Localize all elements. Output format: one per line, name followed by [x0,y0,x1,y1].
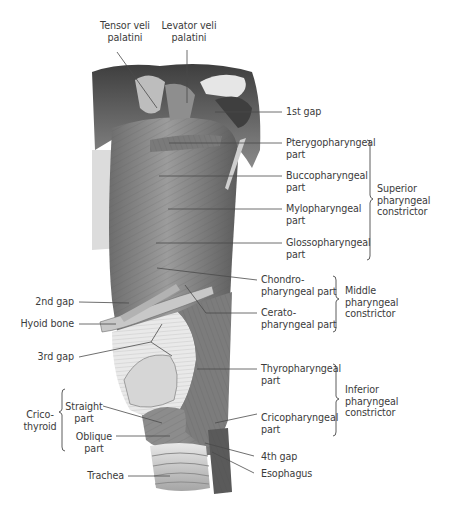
label-oblique-part: Oblique part [74,431,114,454]
label-2nd-gap: 2nd gap [10,296,74,308]
group-inferior-pharyngeal-constrictor: Inferior pharyngeal constrictor [345,384,398,419]
label-chondropharyngeal-part: Chondro- pharyngeal part [261,274,337,297]
label-esophagus: Esophagus [261,468,312,480]
pharynx-illustration [0,0,452,511]
label-trachea: Trachea [60,470,124,482]
group-superior-pharyngeal-constrictor: Superior pharyngeal constrictor [377,183,430,218]
label-ceratopharyngeal-part: Cerato- pharyngeal part [261,307,337,330]
group-middle-pharyngeal-constrictor: Middle pharyngeal constrictor [345,285,398,320]
label-straight-part: Straight part [64,401,104,424]
label-hyoid-bone: Hyoid bone [10,318,74,330]
anatomy-figure: Tensor veli palatini Levator veli palati… [0,0,452,511]
label-3rd-gap: 3rd gap [10,351,74,363]
label-cricopharyngeal-part: Cricopharyngeal part [261,412,338,435]
label-1st-gap: 1st gap [286,106,321,118]
group-cricothyroid: Crico- thyroid [20,409,60,432]
label-levator-veli-palatini: Levator veli palatini [149,20,229,43]
label-4th-gap: 4th gap [261,451,297,463]
label-pterygopharyngeal-part: Pterygopharyngeal part [286,137,376,160]
label-thyropharyngeal-part: Thyropharyngeal part [261,363,341,386]
label-glossopharyngeal-part: Glossopharyngeal part [286,237,371,260]
label-buccopharyngeal-part: Buccopharyngeal part [286,170,368,193]
label-mylopharyngeal-part: Mylopharyngeal part [286,203,361,226]
